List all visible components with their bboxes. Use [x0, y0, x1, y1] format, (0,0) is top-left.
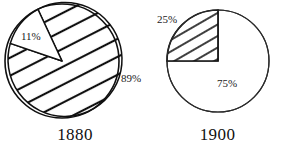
- chart-panel-1880: 11% 89% 1880: [0, 0, 150, 149]
- slice-label-1880-small: 11%: [21, 30, 41, 42]
- pie-chart-1880: [0, 0, 150, 125]
- slice-label-1900-large: 75%: [217, 77, 237, 89]
- slice-label-1880-large: 89%: [121, 72, 141, 84]
- panel-title-1900: 1900: [150, 125, 285, 144]
- panel-title-1880: 1880: [0, 125, 150, 144]
- pie-chart-figure: 11% 89% 1880 25% 75% 19: [0, 0, 285, 149]
- chart-panel-1900: 25% 75% 1900: [150, 0, 285, 149]
- slice-label-1900-small: 25%: [157, 13, 177, 25]
